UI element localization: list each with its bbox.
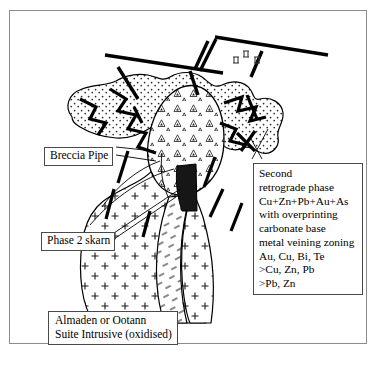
- figure-root: Breccia Pipe Phase 2 skarn Almaden or Oo…: [0, 0, 388, 368]
- callout-breccia-pipe[interactable]: Breccia Pipe: [44, 147, 113, 166]
- intrusive-right-limb: [182, 194, 214, 323]
- massive-sulphide-lens: [176, 164, 197, 211]
- callout-intrusive-suite[interactable]: Almaden or Ootann Suite Intrusive (oxidi…: [48, 311, 178, 345]
- callout-second-retrograde-phase[interactable]: Second retrograde phase Cu+Zn+Pb+Au+As w…: [253, 163, 363, 295]
- callout-phase-2-skarn[interactable]: Phase 2 skarn: [41, 232, 115, 251]
- figure-frame: Breccia Pipe Phase 2 skarn Almaden or Oo…: [9, 10, 367, 344]
